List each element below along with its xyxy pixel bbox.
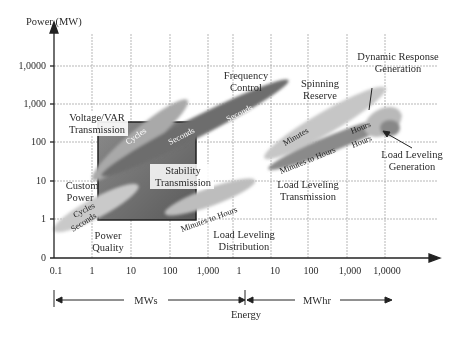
region-label-llg: Load Leveling [381, 149, 443, 160]
y-tick: 100 [31, 136, 46, 147]
y-tick: 1,0000 [19, 60, 47, 71]
region-label-frequency: Frequency [224, 70, 269, 81]
region-label-stability: Stability [165, 165, 201, 176]
region-label-llt: Load Leveling [277, 179, 339, 190]
mws-label: MWs [134, 295, 157, 306]
y-tick: 1,000 [24, 98, 47, 109]
region-label-spinning: Reserve [303, 90, 337, 101]
region-label-custom-power: Custom [66, 180, 99, 191]
region-label-frequency: Control [230, 82, 262, 93]
x-tick: 1 [237, 265, 242, 276]
x-tick: 1,000 [197, 265, 220, 276]
storage-application-chart: Cycles Seconds Seconds Cycles Seconds Mi… [0, 0, 455, 339]
x-tick: 100 [304, 265, 319, 276]
x-tick: 1 [90, 265, 95, 276]
x-tick: 100 [163, 265, 178, 276]
region-label-lld: Distribution [219, 241, 271, 252]
x-tick: 0.1 [50, 265, 63, 276]
y-axis-title: Power (MW) [26, 16, 82, 28]
region-label-power-quality: Power [95, 230, 122, 241]
region-label-llg: Generation [389, 161, 436, 172]
region-label-voltage-var: Voltage/VAR [69, 112, 125, 123]
x-tick: 10 [270, 265, 280, 276]
region-label-custom-power: Power [67, 192, 94, 203]
region-label-stability: Transmission [155, 177, 212, 188]
x-tick: 1,0000 [373, 265, 401, 276]
energy-label: Energy [231, 309, 262, 320]
region-label-power-quality: Quality [92, 242, 124, 253]
region-label-spinning: Spinning [301, 78, 340, 89]
y-tick: 10 [36, 175, 46, 186]
region-label-dynamic: Generation [375, 63, 422, 74]
section-arrows [54, 290, 392, 307]
x-tick: 1,000 [339, 265, 362, 276]
region-label-voltage-var: Transmission [69, 124, 126, 135]
mwhr-label: MWhr [303, 295, 331, 306]
region-label-lld: Load Leveling [213, 229, 275, 240]
region-label-dynamic: Dynamic Response [357, 51, 439, 62]
y-tick: 0 [41, 252, 46, 263]
region-label-llt: Transmission [280, 191, 337, 202]
x-tick: 10 [126, 265, 136, 276]
band-llg [380, 120, 400, 136]
y-tick: 1 [41, 213, 46, 224]
